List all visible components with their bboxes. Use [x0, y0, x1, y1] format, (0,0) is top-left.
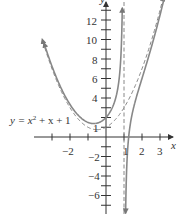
x-tick-label-2: 2: [139, 145, 145, 157]
y-axis-ticks: [101, 10, 111, 205]
x-axis-label: x: [170, 139, 176, 151]
curve-label-prefix: y = x: [9, 114, 33, 126]
y-tick-label-neg4: −4: [88, 170, 100, 182]
x-tick-label-3: 3: [157, 145, 163, 157]
y-tick-label-10: 10: [86, 34, 98, 46]
function-curve-left-branch: [95, 8, 122, 124]
function-graph: −2 1 2 3 x y 12 10 8 6 4 1 −2 −4 −6 y = …: [0, 0, 179, 214]
y-tick-label-neg2: −2: [88, 151, 100, 163]
curve-label-suffix: + x + 1: [36, 114, 70, 126]
function-curve-right-branch-tail: [126, 103, 135, 213]
function-curve-left-branch-tail: [44, 43, 95, 124]
asymptote-parabola: [97, 0, 164, 130]
y-tick-label-12: 12: [86, 15, 97, 27]
y-tick-label-1: 1: [93, 122, 99, 134]
y-tick-label-6: 6: [92, 73, 98, 85]
x-tick-label-neg2: −2: [62, 145, 74, 157]
y-tick-label-8: 8: [92, 54, 98, 66]
y-tick-label-4: 4: [92, 92, 98, 104]
x-tick-label-1: 1: [123, 145, 129, 157]
function-curve-right-branch: [135, 0, 166, 103]
y-axis-label: y: [99, 0, 105, 5]
parabola-equation-label: y = x2 + x + 1: [9, 114, 71, 126]
y-tick-label-neg6: −6: [88, 189, 100, 201]
